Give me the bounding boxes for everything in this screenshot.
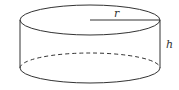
cylinder-figure xyxy=(0,0,179,90)
radius-label: r xyxy=(114,8,119,19)
height-label: h xyxy=(166,39,173,50)
bottom-back-arc xyxy=(20,53,160,68)
bottom-front-arc xyxy=(20,68,160,83)
